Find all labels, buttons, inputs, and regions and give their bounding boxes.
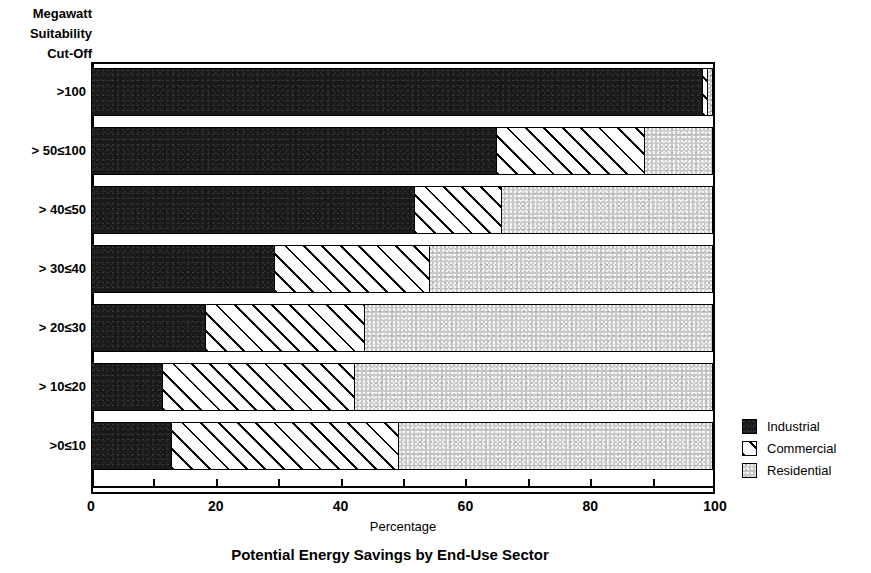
legend-swatch-industrial-icon <box>742 419 757 434</box>
chart-title: Potential Energy Savings by End-Use Sect… <box>40 546 740 563</box>
bar-segment-industrial <box>91 68 703 116</box>
legend-item-residential: Residential <box>742 459 836 481</box>
x-axis-tick <box>153 479 155 486</box>
x-axis-end-cap <box>713 485 715 494</box>
y-axis-title-line-3: Cut-Off <box>0 44 92 64</box>
bar-segment-commercial <box>171 422 399 470</box>
x-axis-tick <box>403 479 405 486</box>
y-axis-category-label: >100 <box>0 84 86 99</box>
bar-row <box>91 422 715 470</box>
bar-segment-commercial <box>274 245 430 293</box>
bar-row <box>91 127 715 175</box>
bar-segment-commercial <box>162 363 355 411</box>
bar-segment-residential <box>354 363 713 411</box>
bar-segment-industrial <box>91 186 415 234</box>
bar-segment-residential <box>707 68 713 116</box>
x-axis-tick-label: 100 <box>703 498 726 514</box>
y-axis-title-line-2: Suitability <box>0 24 92 44</box>
x-axis-tick-label: 0 <box>87 498 95 514</box>
legend-item-industrial: Industrial <box>742 415 836 437</box>
bar-segment-industrial <box>91 363 163 411</box>
bar-row <box>91 304 715 352</box>
bar-row <box>91 245 715 293</box>
x-axis-tick <box>590 479 592 486</box>
x-axis-tick <box>653 479 655 486</box>
bar-segment-industrial <box>91 304 206 352</box>
bar-segment-commercial <box>414 186 501 234</box>
legend-label: Industrial <box>767 419 820 434</box>
bar-segment-industrial <box>91 127 497 175</box>
bar-row <box>91 186 715 234</box>
y-axis-category-label: > 50≤100 <box>0 143 86 158</box>
x-axis-tick-label: 40 <box>333 498 349 514</box>
x-axis-label: Percentage <box>91 519 715 534</box>
y-axis-category-label: > 40≤50 <box>0 202 86 217</box>
x-axis-tick <box>465 479 467 486</box>
plot-area <box>91 62 715 486</box>
bar-segment-commercial <box>205 304 364 352</box>
x-axis-tick <box>528 479 530 486</box>
bar-segment-residential <box>501 186 713 234</box>
bar-row <box>91 363 715 411</box>
x-axis-line-upper <box>91 486 715 488</box>
x-axis-tick-label: 20 <box>208 498 224 514</box>
y-axis-title: Megawatt Suitability Cut-Off <box>0 4 92 64</box>
bar-segment-residential <box>429 245 713 293</box>
bar-row <box>91 68 715 116</box>
x-axis-tick <box>341 479 343 486</box>
x-axis-tick <box>278 479 280 486</box>
bar-segment-residential <box>364 304 713 352</box>
legend-swatch-residential-icon <box>742 463 757 478</box>
x-axis-tick-label: 60 <box>458 498 474 514</box>
y-axis-category-label: > 10≤20 <box>0 379 86 394</box>
y-axis-title-line-1: Megawatt <box>0 4 92 24</box>
y-axis-category-label: > 20≤30 <box>0 320 86 335</box>
bar-segment-industrial <box>91 422 172 470</box>
legend-label: Commercial <box>767 441 836 456</box>
bar-segment-residential <box>644 127 713 175</box>
bar-segment-commercial <box>496 127 646 175</box>
x-axis-line-lower <box>91 492 715 494</box>
x-axis: 020406080100 <box>91 486 715 487</box>
x-axis-tick <box>216 479 218 486</box>
legend-item-commercial: Commercial <box>742 437 836 459</box>
y-axis-category-label: >0≤10 <box>0 438 86 453</box>
bar-segment-residential <box>398 422 713 470</box>
legend-swatch-commercial-icon <box>742 441 757 456</box>
x-axis-tick-label: 80 <box>582 498 598 514</box>
y-axis-category-label: > 30≤40 <box>0 261 86 276</box>
legend: IndustrialCommercialResidential <box>742 415 836 481</box>
x-axis-end-cap <box>91 485 93 494</box>
bar-segment-industrial <box>91 245 275 293</box>
legend-label: Residential <box>767 463 831 478</box>
